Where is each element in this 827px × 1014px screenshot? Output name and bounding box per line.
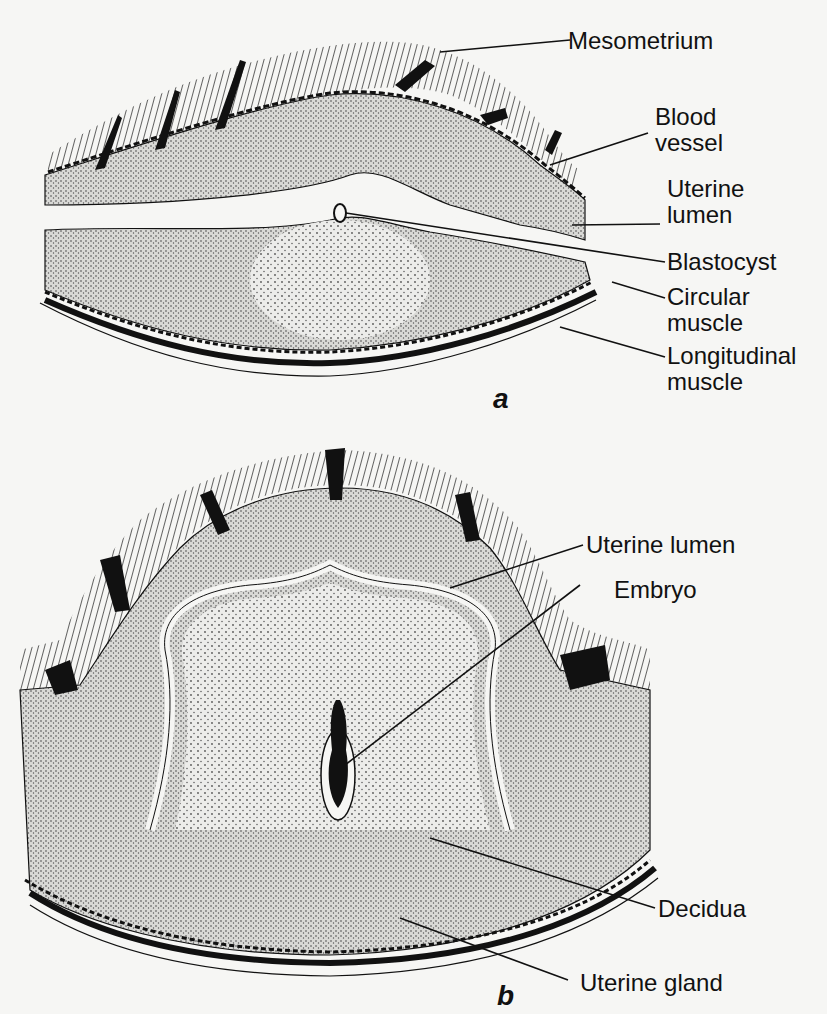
label-longitudinal-muscle-line2: muscle [667, 369, 796, 395]
label-blastocyst: Blastocyst [667, 249, 776, 275]
label-uterine-lumen-a: Uterine lumen [667, 176, 744, 228]
label-uterine-lumen-a-line1: Uterine [667, 176, 744, 202]
label-circular-muscle: Circular muscle [667, 284, 750, 336]
label-uterine-gland: Uterine gland [580, 970, 723, 996]
label-uterine-lumen-b: Uterine lumen [586, 532, 735, 558]
label-decidua: Decidua [658, 896, 746, 922]
label-mesometrium: Mesometrium [568, 28, 713, 54]
label-blood-vessel-line2: vessel [655, 130, 723, 156]
decidua-zone-a [250, 220, 430, 340]
label-blood-vessel: Blood vessel [655, 104, 723, 156]
blastocyst [334, 204, 346, 222]
label-uterine-lumen-a-line2: lumen [667, 202, 744, 228]
label-circular-muscle-line1: Circular [667, 284, 750, 310]
label-longitudinal-muscle: Longitudinal muscle [667, 343, 796, 395]
label-longitudinal-muscle-line1: Longitudinal [667, 343, 796, 369]
panel-a-tag: a [493, 383, 509, 415]
label-blood-vessel-line1: Blood [655, 104, 723, 130]
label-embryo: Embryo [614, 577, 697, 603]
panel-b-tag: b [497, 980, 514, 1012]
label-circular-muscle-line2: muscle [667, 310, 750, 336]
panel-b-drawing [20, 448, 658, 980]
panel-a-drawing [40, 40, 665, 376]
